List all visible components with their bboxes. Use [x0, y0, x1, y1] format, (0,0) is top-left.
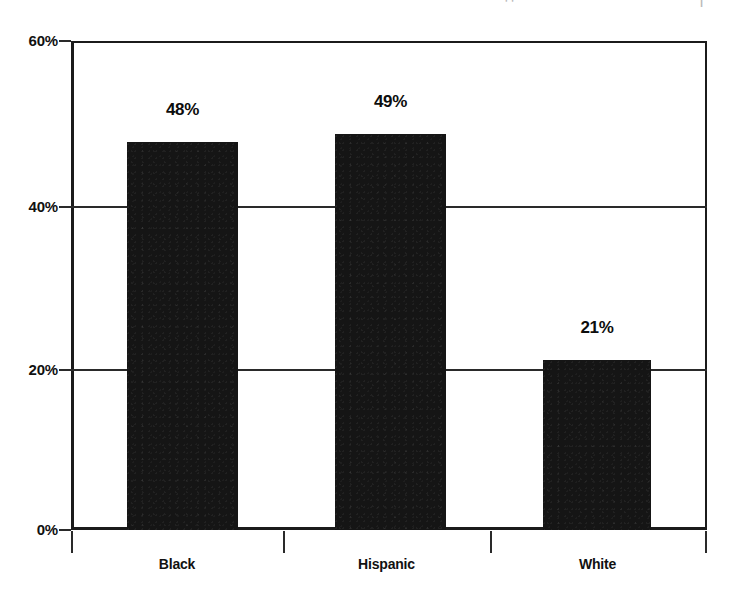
- y-tick-20: [59, 369, 71, 371]
- cropped-title-remnant-left: ' ': [505, 0, 514, 7]
- bar-value-white: 21%: [543, 318, 651, 338]
- y-tick-40: [59, 206, 71, 208]
- bar-black: [127, 142, 238, 530]
- x-separator-2: [490, 531, 492, 553]
- cropped-title-remnant-right: |: [700, 0, 703, 7]
- x-separator-end: [705, 531, 707, 553]
- chart-figure: ' ' | 60% 40% 20% 0% 48% 49% 21% Black H…: [0, 0, 730, 595]
- x-separator-start: [71, 531, 73, 553]
- y-axis: 60% 40% 20% 0%: [0, 0, 58, 595]
- y-axis-label-20: 20%: [2, 361, 58, 378]
- x-axis-label-white: White: [490, 556, 705, 572]
- bar-hispanic: [335, 134, 446, 530]
- y-tick-60: [59, 40, 71, 42]
- bar-white: [543, 360, 651, 530]
- x-axis-label-black: Black: [71, 556, 283, 572]
- y-axis-label-40: 40%: [2, 198, 58, 215]
- bar-value-hispanic: 49%: [335, 92, 446, 112]
- x-separator-1: [283, 531, 285, 553]
- y-axis-label-60: 60%: [2, 32, 58, 49]
- bar-value-black: 48%: [127, 100, 238, 120]
- y-tick-0: [59, 529, 71, 531]
- x-axis-label-hispanic: Hispanic: [283, 556, 490, 572]
- y-axis-label-0: 0%: [2, 521, 58, 538]
